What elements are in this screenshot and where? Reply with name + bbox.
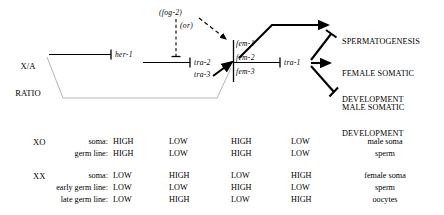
table-cell: HIGH — [291, 172, 311, 181]
table-result-cell: sperm — [330, 184, 440, 193]
her1-to-tra2-edge — [143, 58, 190, 68]
table-cell: HIGH — [113, 150, 133, 159]
table-cell: HIGH — [113, 138, 133, 147]
table-cell: LOW — [291, 150, 310, 159]
table-result-cell: sperm — [330, 150, 440, 159]
table-cell: LOW — [169, 138, 188, 147]
table-cell: LOW — [169, 150, 188, 159]
gene-fog-2: (fog-2) — [159, 9, 182, 17]
table-cell: LOW — [169, 184, 188, 193]
tra1-to-male-somatic-edge — [311, 66, 338, 97]
xa-ratio-line2: RATIO — [7, 89, 49, 98]
xa-ratio-line1: X/A — [7, 62, 49, 71]
xa-ratio-node: X/A RATIO — [7, 43, 49, 117]
table-cell: HIGH — [169, 172, 189, 181]
tra23-to-fem-edge — [213, 62, 232, 76]
outcome-male-somatic-line1: MALE SOMATIC — [342, 104, 404, 113]
tra1-to-spermatogenesis-edge — [311, 30, 337, 60]
table-cell: HIGH — [291, 196, 311, 205]
xa-to-her1-edge — [49, 50, 111, 60]
table-row-label: early germ line: — [30, 184, 108, 193]
table-row-label: soma: — [40, 172, 108, 181]
table-cell: LOW — [231, 172, 250, 181]
table-result-cell: oocytes — [330, 196, 440, 205]
table-cell: HIGH — [231, 184, 251, 193]
table-result-cell: female soma — [330, 172, 440, 181]
gene-tra-3: tra-3 — [194, 71, 211, 79]
gene-her-1: her-1 — [115, 51, 133, 59]
table-result-cell: male soma — [330, 138, 440, 147]
table-cell: LOW — [113, 172, 132, 181]
table-cell: HIGH — [169, 196, 189, 205]
table-cell: LOW — [231, 196, 250, 205]
label-or: (or) — [180, 22, 193, 30]
table-cell: LOW — [291, 184, 310, 193]
gene-tra-1: tra-1 — [284, 59, 301, 67]
table-cell: LOW — [113, 184, 132, 193]
table-cell: LOW — [291, 138, 310, 147]
gene-fem-2: fem-2 — [236, 54, 255, 62]
table-cell: HIGH — [231, 138, 251, 147]
table-row-label: germ line: — [40, 150, 108, 159]
outcome-spermatogenesis-line1: SPERMATOGENESIS — [342, 38, 420, 47]
gene-tra-2: tra-2 — [194, 59, 211, 67]
table-row-label: soma: — [40, 138, 108, 147]
outcome-female-somatic-line1: FEMALE SOMATIC — [342, 70, 414, 79]
figure-root: X/A RATIO her-1 (fog-2) (or) tra-2 tra-3… — [0, 0, 444, 215]
gene-fem-3: fem-3 — [236, 68, 255, 76]
table-cell: LOW — [113, 196, 132, 205]
table-cell: HIGH — [231, 150, 251, 159]
fog2-to-fem-dashed-edge — [199, 18, 226, 39]
gene-fem-1: fem-1 — [236, 40, 255, 48]
table-row-label: late germ line: — [30, 196, 108, 205]
